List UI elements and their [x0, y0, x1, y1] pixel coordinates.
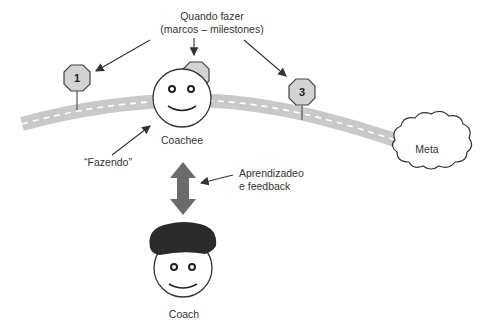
coach-face-icon [149, 222, 216, 297]
coach-label: Coach [169, 308, 200, 320]
milestone-3-label: 3 [299, 86, 305, 98]
coachee-label: Coachee [161, 134, 203, 146]
coachee-face-icon [153, 69, 211, 127]
feedback-double-arrow-icon [170, 162, 196, 215]
when-label-line1: Quando fazer [180, 10, 244, 22]
learning-label-line2: e feedback [239, 180, 291, 192]
milestone-1-label: 1 [74, 72, 80, 84]
learning-arrow [201, 175, 233, 183]
doing-arrow [112, 126, 150, 155]
learning-label-line1: Aprendizadeo [239, 167, 304, 179]
goal-label: Meta [415, 143, 439, 155]
goal-cloud-icon: Meta [392, 111, 471, 169]
doing-label: “Fazendo” [84, 156, 132, 168]
coaching-diagram: 1 3 Quando fazer (marcos – milestones) C… [0, 0, 494, 329]
when-label-line2: (marcos – milestones) [160, 23, 263, 35]
